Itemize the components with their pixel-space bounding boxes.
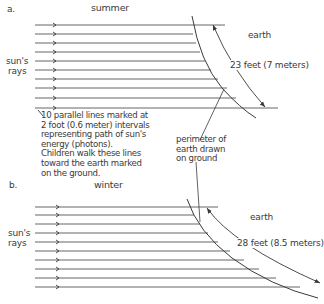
perimeter-leader-summer bbox=[200, 89, 224, 140]
panel-b-rays-label-2: rays bbox=[8, 238, 26, 248]
summer-ray-arrowheads bbox=[53, 23, 56, 110]
panel-b-rays-label-1: sun's bbox=[8, 228, 30, 238]
perimeter-note-line-3: on ground bbox=[176, 154, 226, 164]
panel-a-distance-label: 23 feet (7 meters) bbox=[229, 60, 310, 70]
winter-ray-arrowheads bbox=[56, 205, 59, 289]
panel-b-earth-label: earth bbox=[250, 212, 273, 222]
panel-a-earth-label: earth bbox=[248, 30, 271, 40]
panel-b-season-title: winter bbox=[94, 180, 123, 190]
panel-a-rays-label-1: sun's bbox=[6, 56, 28, 66]
panel-a-rays-label-2: rays bbox=[8, 66, 26, 76]
panel-a-instructions-note: 10 parallel lines marked at 2 foot (0.6 … bbox=[41, 111, 149, 178]
panel-b-label: b. bbox=[9, 180, 17, 190]
panel-a-label: a. bbox=[7, 4, 15, 14]
panel-a-season-title: summer bbox=[91, 3, 129, 13]
note-line-7: on the ground. bbox=[41, 169, 149, 179]
panel-b-distance-label: 28 feet (8.5 meters) bbox=[236, 238, 324, 248]
perimeter-note: perimeter of earth drawn on ground bbox=[176, 135, 226, 164]
perimeter-leader-winter bbox=[196, 162, 200, 222]
